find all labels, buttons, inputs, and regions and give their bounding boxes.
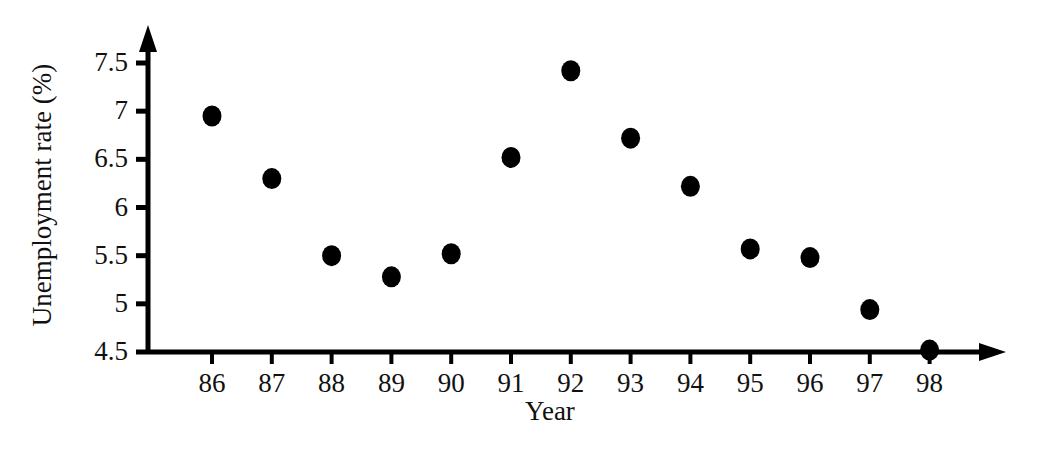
y-axis-tick-label: 7.5 [58, 49, 128, 76]
y-axis-arrow-icon [139, 25, 157, 52]
y-axis-tick-label: 5 [58, 290, 128, 317]
data-point [801, 247, 820, 268]
y-axis-tick-label: 4.5 [58, 338, 128, 365]
x-axis-tick-label: 92 [541, 370, 601, 397]
data-point [920, 340, 939, 361]
data-point [741, 238, 760, 259]
chart-figure: Unemployment rate (%) Year 7.576.565.554… [0, 0, 1043, 449]
data-point [322, 245, 341, 266]
x-axis-tick-label: 88 [302, 370, 362, 397]
x-axis-tick-label: 96 [780, 370, 840, 397]
x-axis-arrow-icon [979, 343, 1006, 361]
data-point [442, 243, 461, 264]
y-axis-tick-label: 6 [58, 194, 128, 221]
x-axis-tick-label: 90 [421, 370, 481, 397]
data-point [203, 105, 222, 126]
y-axis-tick-label: 7 [58, 97, 128, 124]
x-axis-tick-label: 94 [660, 370, 720, 397]
x-axis-tick-label: 95 [720, 370, 780, 397]
data-point [382, 266, 401, 287]
y-axis-tick-label: 6.5 [58, 145, 128, 172]
y-axis-tick-label: 5.5 [58, 242, 128, 269]
data-points [203, 60, 940, 360]
data-point [561, 60, 580, 81]
x-axis-tick-label: 86 [182, 370, 242, 397]
data-point [860, 299, 879, 320]
data-point [681, 176, 700, 197]
x-axis-tick-label: 91 [481, 370, 541, 397]
data-point [621, 128, 640, 149]
x-axis-tick-label: 98 [900, 370, 960, 397]
x-axis-tick-label: 87 [242, 370, 302, 397]
data-point [502, 147, 521, 168]
x-axis-tick-label: 93 [601, 370, 661, 397]
x-axis-tick-label: 89 [361, 370, 421, 397]
data-point [262, 168, 281, 189]
x-axis-tick-label: 97 [840, 370, 900, 397]
